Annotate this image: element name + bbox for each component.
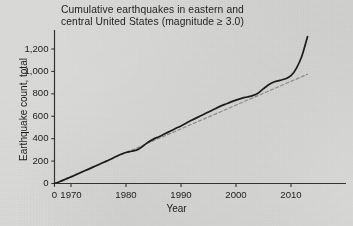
y-tick-label: 800 <box>32 87 48 98</box>
x-tick-label: 1990 <box>161 189 201 200</box>
x-axis-title: Year <box>0 203 353 214</box>
x-tick-label: 1970 <box>51 189 91 200</box>
x-tick-label: 2010 <box>271 189 311 200</box>
y-tick-label: 600 <box>32 110 48 121</box>
x-tick-label: 1980 <box>106 189 146 200</box>
y-tick-label: 200 <box>32 155 48 166</box>
x-tick-label: 2000 <box>216 189 256 200</box>
cumulative-earthquake-line <box>55 37 308 184</box>
y-tick-label: 400 <box>32 132 48 143</box>
y-axis-title: Earthquake count, total <box>18 35 29 185</box>
chart-figure: Cumulative earthquakes in eastern and ce… <box>0 0 353 226</box>
y-tick-label: 0 <box>43 177 48 188</box>
